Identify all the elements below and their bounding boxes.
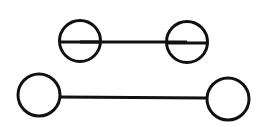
connecting-line <box>60 97 207 98</box>
right-circle <box>207 78 249 120</box>
diagram-canvas <box>0 0 261 127</box>
bottom-figure <box>18 74 249 120</box>
top-figure <box>60 21 208 63</box>
left-circle <box>18 74 60 116</box>
